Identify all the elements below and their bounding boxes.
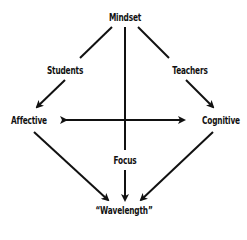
node-affective: Affective	[11, 115, 47, 126]
edge-affective-wavelength	[34, 132, 108, 200]
node-cognitive: Cognitive	[202, 115, 240, 126]
edge-students-affective	[37, 80, 65, 107]
node-focus: Focus	[114, 155, 137, 166]
edge-teachers-cognitive	[186, 80, 213, 107]
edge-cognitive-wavelength	[141, 132, 213, 200]
node-teachers: Teachers	[172, 65, 207, 76]
edge-mindset-teachers	[138, 27, 169, 58]
node-wavelength: “Wavelength”	[95, 205, 152, 216]
edge-mindset-students	[80, 27, 112, 58]
node-mindset: Mindset	[109, 12, 141, 23]
diagram-canvas: Mindset Students Teachers Affective Cogn…	[0, 0, 247, 240]
node-students: Students	[47, 65, 83, 76]
